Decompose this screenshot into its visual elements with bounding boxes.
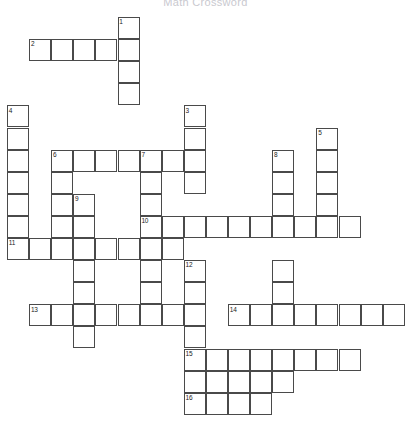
crossword-cell[interactable] (184, 282, 206, 304)
crossword-cell[interactable] (184, 326, 206, 348)
crossword-cell[interactable] (140, 260, 162, 282)
crossword-cell[interactable] (51, 304, 73, 326)
crossword-cell[interactable] (95, 304, 117, 326)
crossword-cell[interactable] (73, 282, 95, 304)
crossword-cell[interactable] (140, 282, 162, 304)
crossword-cell[interactable] (118, 39, 140, 61)
crossword-cell[interactable] (162, 238, 184, 260)
crossword-cell[interactable] (184, 128, 206, 150)
crossword-cell[interactable] (118, 61, 140, 83)
crossword-cell[interactable] (272, 260, 294, 282)
crossword-cell[interactable] (73, 260, 95, 282)
crossword-cell[interactable] (294, 349, 316, 371)
crossword-cell[interactable] (250, 393, 272, 415)
crossword-cell[interactable] (73, 39, 95, 61)
crossword-cell[interactable] (206, 349, 228, 371)
crossword-cell[interactable] (294, 216, 316, 238)
crossword-cell[interactable] (184, 172, 206, 194)
crossword-cell[interactable] (272, 282, 294, 304)
crossword-cell[interactable] (140, 238, 162, 260)
crossword-cell[interactable] (73, 326, 95, 348)
crossword-cell[interactable] (272, 150, 294, 172)
crossword-cell[interactable] (7, 172, 29, 194)
crossword-cell[interactable] (184, 393, 206, 415)
crossword-cell[interactable] (316, 194, 338, 216)
crossword-cell[interactable] (162, 150, 184, 172)
crossword-cell[interactable] (162, 304, 184, 326)
crossword-cell[interactable] (184, 150, 206, 172)
crossword-cell[interactable] (51, 216, 73, 238)
crossword-cell[interactable] (316, 150, 338, 172)
crossword-cell[interactable] (272, 304, 294, 326)
crossword-cell[interactable] (7, 216, 29, 238)
crossword-cell[interactable] (140, 194, 162, 216)
crossword-cell[interactable] (118, 238, 140, 260)
crossword-cell[interactable] (29, 39, 51, 61)
crossword-cell[interactable] (206, 371, 228, 393)
crossword-cell[interactable] (250, 349, 272, 371)
crossword-cell[interactable] (250, 371, 272, 393)
crossword-cell[interactable] (184, 105, 206, 127)
crossword-cell[interactable] (361, 304, 383, 326)
crossword-cell[interactable] (184, 304, 206, 326)
crossword-cell[interactable] (184, 371, 206, 393)
crossword-cell[interactable] (7, 150, 29, 172)
crossword-cell[interactable] (228, 304, 250, 326)
crossword-cell[interactable] (51, 194, 73, 216)
crossword-cell[interactable] (7, 128, 29, 150)
crossword-cell[interactable] (272, 194, 294, 216)
crossword-cell[interactable] (316, 349, 338, 371)
crossword-cell[interactable] (7, 105, 29, 127)
crossword-cell[interactable] (140, 304, 162, 326)
crossword-cell[interactable] (339, 304, 361, 326)
crossword-cell[interactable] (184, 349, 206, 371)
crossword-cell[interactable] (29, 304, 51, 326)
crossword-cell[interactable] (73, 304, 95, 326)
crossword-cell[interactable] (73, 194, 95, 216)
crossword-cell[interactable] (316, 128, 338, 150)
crossword-cell[interactable] (95, 39, 117, 61)
crossword-cell[interactable] (118, 17, 140, 39)
crossword-cell[interactable] (95, 238, 117, 260)
crossword-cell[interactable] (383, 304, 405, 326)
crossword-cell[interactable] (73, 238, 95, 260)
crossword-cell[interactable] (228, 349, 250, 371)
crossword-cell[interactable] (140, 172, 162, 194)
crossword-cell[interactable] (118, 150, 140, 172)
crossword-cell[interactable] (272, 172, 294, 194)
crossword-cell[interactable] (206, 393, 228, 415)
crossword-cell[interactable] (51, 238, 73, 260)
crossword-cell[interactable] (73, 150, 95, 172)
crossword-cell[interactable] (294, 304, 316, 326)
crossword-cell[interactable] (184, 216, 206, 238)
crossword-cell[interactable] (118, 83, 140, 105)
crossword-cell[interactable] (339, 349, 361, 371)
crossword-cell[interactable] (51, 172, 73, 194)
crossword-cell[interactable] (140, 150, 162, 172)
crossword-cell[interactable] (228, 371, 250, 393)
crossword-cell[interactable] (316, 172, 338, 194)
crossword-cell[interactable] (140, 216, 162, 238)
crossword-cell[interactable] (95, 150, 117, 172)
crossword-cell[interactable] (272, 216, 294, 238)
crossword-cell[interactable] (272, 349, 294, 371)
crossword-cell[interactable] (73, 216, 95, 238)
crossword-cell[interactable] (51, 39, 73, 61)
crossword-cell[interactable] (250, 304, 272, 326)
crossword-cell[interactable] (272, 371, 294, 393)
crossword-cell[interactable] (29, 238, 51, 260)
crossword-grid[interactable]: 12435678910111213141516 (0, 0, 411, 434)
crossword-cell[interactable] (228, 216, 250, 238)
crossword-cell[interactable] (316, 304, 338, 326)
crossword-cell[interactable] (162, 216, 184, 238)
crossword-cell[interactable] (339, 216, 361, 238)
crossword-cell[interactable] (228, 393, 250, 415)
crossword-cell[interactable] (184, 260, 206, 282)
crossword-cell[interactable] (118, 304, 140, 326)
crossword-cell[interactable] (316, 216, 338, 238)
crossword-cell[interactable] (7, 194, 29, 216)
crossword-cell[interactable] (206, 216, 228, 238)
crossword-cell[interactable] (51, 150, 73, 172)
crossword-cell[interactable] (250, 216, 272, 238)
crossword-cell[interactable] (7, 238, 29, 260)
